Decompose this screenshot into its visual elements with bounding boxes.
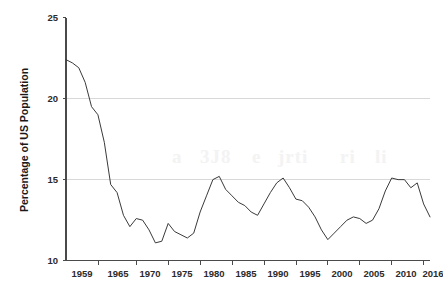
y-axis-label: Percentage of US Population	[18, 68, 30, 212]
svg-text:jrti: jrti	[277, 146, 308, 167]
y-tick-label-25: 25	[47, 12, 58, 23]
x-tick-label-2005: 2005	[363, 268, 385, 279]
x-tick-label-2010: 2010	[395, 268, 416, 279]
x-tick-label-2016: 2016	[422, 268, 443, 279]
x-tick-label-1980: 1980	[203, 268, 224, 279]
svg-text:li: li	[375, 146, 388, 167]
svg-text:a: a	[172, 146, 183, 167]
x-tick-label-1965: 1965	[107, 268, 129, 279]
background-watermark: a 3J8 e jrti ri li	[172, 146, 388, 167]
x-tick-label-1959: 1959	[71, 268, 92, 279]
x-tick-label-1975: 1975	[171, 268, 193, 279]
y-tick-label-15: 15	[47, 174, 58, 185]
x-tick-label-1995: 1995	[299, 268, 321, 279]
y-tick-label-10: 10	[47, 255, 58, 266]
x-tick-label-1970: 1970	[139, 268, 160, 279]
svg-text:e: e	[252, 146, 261, 167]
y-tick-label-20: 20	[47, 93, 58, 104]
x-tick-label-1990: 1990	[267, 268, 288, 279]
svg-text:ri: ri	[340, 146, 356, 167]
x-tick-label-1985: 1985	[235, 268, 257, 279]
chart-figure: a 3J8 e jrti ri li 25 20 15 10	[0, 0, 443, 300]
line-chart: a 3J8 e jrti ri li 25 20 15 10	[0, 0, 443, 300]
x-tick-label-2000: 2000	[331, 268, 352, 279]
svg-text:3J8: 3J8	[200, 146, 232, 167]
